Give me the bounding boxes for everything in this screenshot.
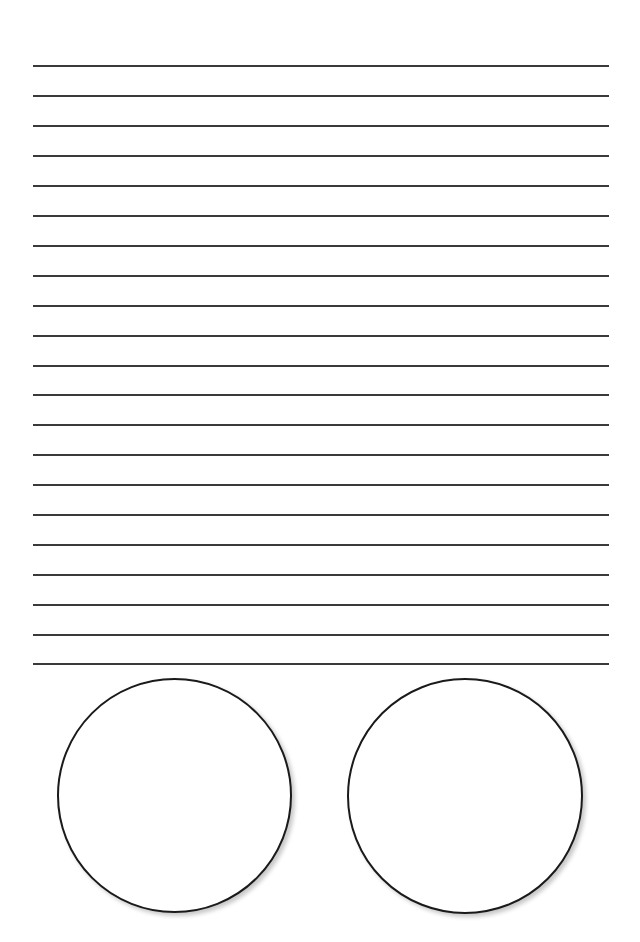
worksheet-page xyxy=(0,0,640,942)
ruled-line xyxy=(33,275,609,277)
ruled-line xyxy=(33,95,609,97)
left-circle xyxy=(57,678,292,913)
ruled-line xyxy=(33,574,609,576)
ruled-line xyxy=(33,335,609,337)
ruled-line xyxy=(33,604,609,606)
right-circle xyxy=(347,678,583,914)
ruled-line xyxy=(33,484,609,486)
ruled-line xyxy=(33,634,609,636)
ruled-line xyxy=(33,305,609,307)
ruled-line xyxy=(33,155,609,157)
ruled-line xyxy=(33,663,609,665)
ruled-line xyxy=(33,365,609,367)
ruled-line xyxy=(33,514,609,516)
ruled-line xyxy=(33,215,609,217)
ruled-line xyxy=(33,245,609,247)
ruled-line xyxy=(33,65,609,67)
ruled-line xyxy=(33,544,609,546)
ruled-line xyxy=(33,424,609,426)
ruled-line xyxy=(33,125,609,127)
ruled-line xyxy=(33,394,609,396)
ruled-line xyxy=(33,454,609,456)
ruled-line xyxy=(33,185,609,187)
